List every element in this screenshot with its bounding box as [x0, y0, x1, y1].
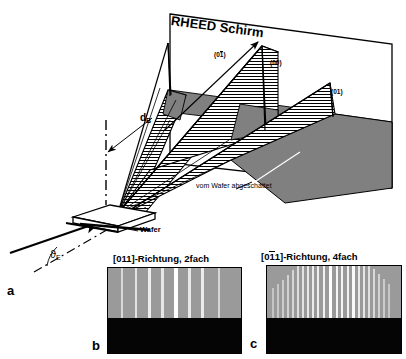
diffraction-streak — [329, 266, 332, 318]
spot-label-01bar: (01) — [214, 52, 226, 59]
pattern-c-shadow — [267, 318, 401, 353]
diffraction-streak — [135, 268, 137, 318]
diffraction-streak — [373, 269, 375, 318]
diffraction-streak — [218, 268, 220, 318]
pattern-c-streaks — [267, 266, 401, 318]
pattern-c-title: [011]-Richtung, 4fach — [261, 252, 358, 262]
diffraction-streak — [383, 279, 385, 318]
diffraction-streak — [307, 266, 309, 318]
diffraction-streak — [368, 266, 370, 318]
diffraction-streak — [378, 274, 380, 318]
pattern-b-image — [107, 267, 242, 354]
diffraction-streak — [363, 266, 365, 318]
wafer-label: Wafer — [140, 226, 161, 234]
diffraction-streak — [272, 288, 274, 318]
diffraction-streak — [121, 268, 123, 318]
figure-letter-c: c — [250, 337, 257, 350]
diffraction-streak — [287, 275, 289, 318]
diffraction-streak — [312, 266, 314, 318]
diffraction-streak — [317, 266, 319, 318]
diffraction-streak — [277, 284, 279, 318]
pattern-b-title-text: [011]-Richtung, 2fach — [113, 253, 209, 264]
diffraction-streak — [336, 266, 338, 318]
overbar-1-c: 1 — [269, 252, 274, 262]
diffraction-streak — [188, 268, 191, 318]
diffraction-streak — [282, 280, 284, 318]
spot-label-01: (01) — [331, 89, 343, 96]
shadow-region-label: vom Wafer abgeschattet — [196, 182, 272, 189]
spot-label-00: (00) — [270, 60, 282, 67]
pattern-b-shadow — [108, 318, 241, 353]
diffraction-streak — [388, 284, 390, 318]
diffraction-streak — [161, 268, 164, 318]
theta-subscript: E — [56, 254, 61, 261]
pattern-c-image — [266, 265, 402, 354]
diffraction-streak — [347, 266, 349, 318]
overbar-1: 1 — [220, 52, 224, 59]
rheed-figure: RHEED Schirm (01) (00) (01) dB vom Wafer… — [0, 0, 406, 359]
pattern-c-symmetry: 4fach — [333, 251, 358, 262]
diffraction-streak — [148, 268, 151, 318]
figure-letter-a: a — [7, 284, 14, 297]
diffraction-streak — [302, 266, 304, 318]
pattern-b-streaks — [108, 268, 241, 318]
diffraction-streak — [352, 266, 355, 318]
diffraction-streak — [292, 270, 294, 318]
diffraction-streak — [201, 268, 204, 318]
diffraction-streak — [323, 266, 325, 318]
diffraction-streak — [174, 268, 178, 318]
diffraction-streak — [297, 266, 299, 318]
d-subscript: B — [146, 117, 151, 124]
diffraction-streak — [341, 266, 343, 318]
diffraction-streak — [358, 266, 360, 318]
figure-letter-b: b — [92, 339, 100, 352]
pattern-b-title: [011]-Richtung, 2fach — [113, 254, 209, 264]
incidence-angle-label: ϑE — [50, 249, 61, 261]
beam-distance-label: dB — [140, 113, 151, 124]
